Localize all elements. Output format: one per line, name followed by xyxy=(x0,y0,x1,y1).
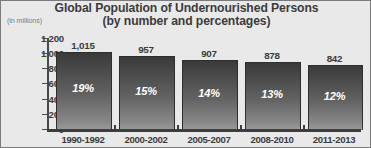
x-axis-line xyxy=(47,129,361,132)
x-axis-label-2008-2010: 2008-2010 xyxy=(240,134,304,145)
bar-value-label-2005-2007: 907 xyxy=(182,48,236,59)
plot-area: 1,200 1,000 800 600 400 200 0 1,015 957 … xyxy=(1,1,371,148)
bar-percent-label-2000-2002: 15% xyxy=(119,85,173,97)
x-tick-mark-2 xyxy=(177,125,179,129)
x-tick-mark-4 xyxy=(303,125,305,129)
bar-percent-label-2011-2013: 12% xyxy=(308,90,361,102)
x-axis-label-2011-2013: 2011-2013 xyxy=(302,134,366,145)
bar-value-label-2000-2002: 957 xyxy=(119,44,173,55)
bar-percent-label-2008-2010: 13% xyxy=(245,88,299,100)
bar-percent-label-2005-2007: 14% xyxy=(182,87,236,99)
y-axis-line xyxy=(47,38,49,130)
bar-percent-label-1990-1992: 19% xyxy=(56,82,110,94)
x-axis-label-2005-2007: 2005-2007 xyxy=(177,134,241,145)
bar-value-label-2011-2013: 842 xyxy=(308,53,361,64)
bar-value-label-1990-1992: 1,015 xyxy=(56,40,110,51)
chart-container: Global Population of Undernourished Pers… xyxy=(0,0,371,148)
x-axis-label-1990-1992: 1990-1992 xyxy=(51,134,115,145)
bar-value-label-2008-2010: 878 xyxy=(245,50,299,61)
x-axis-label-2000-2002: 2000-2002 xyxy=(114,134,178,145)
x-tick-mark-3 xyxy=(240,125,242,129)
x-tick-mark-1 xyxy=(114,125,116,129)
